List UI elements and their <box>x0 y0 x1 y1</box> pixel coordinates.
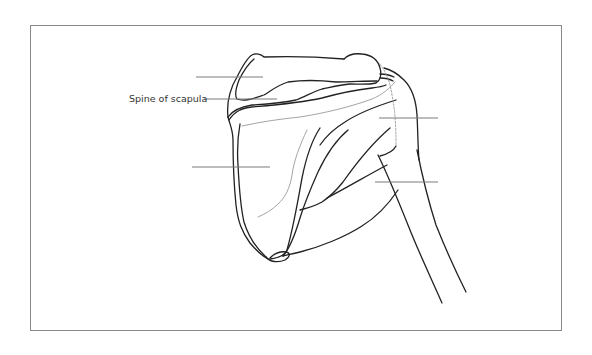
anatomy-illustration <box>0 0 592 355</box>
humerus-shaft-left <box>378 155 442 303</box>
diagram-canvas: Spine of scapula <box>0 0 592 355</box>
humerus-inner-line <box>380 146 396 156</box>
lateral-border <box>283 130 348 256</box>
humerus-neck-lines <box>380 74 394 81</box>
teres-major-line <box>283 190 398 256</box>
label-spine-of-scapula: Spine of scapula <box>129 93 207 105</box>
deltoid-posterior-line <box>320 100 396 145</box>
medial-border-inner <box>238 124 266 257</box>
medial-border-outer <box>228 117 268 259</box>
lateral-border-upper <box>270 128 320 259</box>
faint-fossa-curve <box>258 130 307 217</box>
humerus-shaft-right <box>417 150 466 292</box>
spine-inner-outline <box>236 59 377 100</box>
